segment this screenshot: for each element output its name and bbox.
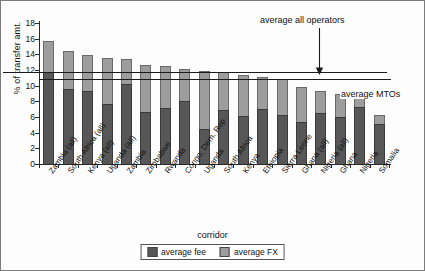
bar-segment-average-fx[interactable] [63,51,74,89]
y-tick-mark [35,117,39,118]
y-tick-mark [35,39,39,40]
y-axis-title: % of transfer amt. [12,0,22,118]
chart-legend: average fee average FX [140,244,285,260]
legend-item-average-fx[interactable]: average FX [220,247,278,257]
annotation-average-mtos: average MTOs [340,89,401,99]
bar-segment-average-fx[interactable] [218,72,229,110]
bar-segment-average-fx[interactable] [277,79,288,115]
annotation-average-all-operators: average all operators [260,15,345,25]
reference-line-average-mtos [39,79,391,80]
dark-gray-swatch-icon [147,247,157,257]
light-gray-swatch-icon [220,247,230,257]
bar-segment-average-fx[interactable] [257,77,268,109]
bar-segment-average-fx[interactable] [238,75,249,117]
bar-segment-average-fx[interactable] [315,91,326,113]
y-tick-mark [35,101,39,102]
x-tick-mark [39,164,40,168]
bar-segment-average-fx[interactable] [179,69,190,100]
y-tick-mark [35,148,39,149]
y-tick-mark [35,86,39,87]
bar-segment-average-fx[interactable] [43,41,54,72]
bar-stack[interactable] [43,41,54,164]
y-tick-mark [35,54,39,55]
bar-segment-average-fx[interactable] [374,115,385,124]
bar-stack[interactable] [257,77,268,164]
legend-item-average-fee[interactable]: average fee [147,247,206,257]
reference-line-average-all-operators [3,72,387,73]
y-tick-mark [35,70,39,71]
y-tick-mark [35,133,39,134]
x-axis-title: corridor [1,230,424,240]
bar-segment-average-fx[interactable] [102,58,113,104]
chart-figure: % of transfer amt. 024681012141618 Zambi… [0,0,425,271]
y-tick-mark [35,23,39,24]
bar-segment-average-fx[interactable] [296,87,307,121]
legend-label-average-fx: average FX [234,247,278,257]
legend-label-average-fee: average fee [161,247,206,257]
annotation-arrow-icon [315,28,324,76]
bar-segment-average-fee[interactable] [43,72,54,164]
